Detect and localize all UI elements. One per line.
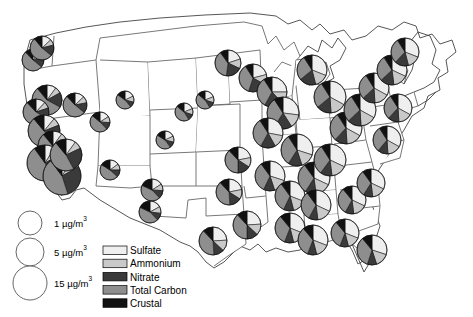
pie-marker [90, 112, 110, 132]
species-legend-swatch [103, 259, 127, 268]
pie-marker [215, 50, 241, 76]
pie-marker [50, 139, 82, 171]
pie-marker [100, 160, 120, 180]
pie-marker [139, 201, 161, 223]
pie-marker [281, 134, 313, 166]
pie-marker [63, 93, 87, 117]
pie-marker [216, 179, 242, 205]
species-legend-swatch [103, 272, 127, 281]
pie-marker [253, 118, 283, 148]
species-legend-label: Total Carbon [130, 285, 187, 296]
pie-marker [314, 81, 346, 113]
size-legend-circle [16, 238, 44, 266]
pie-marker [314, 144, 346, 176]
size-legend-label: 15 µg/m3 [54, 274, 93, 289]
pie-marker [384, 94, 412, 122]
pie-marker [331, 219, 359, 247]
size-legend-label: 5 µg/m3 [54, 243, 87, 258]
pie-marker [357, 169, 385, 197]
species-legend-label: Crustal [130, 298, 162, 309]
pie-marker [196, 91, 214, 109]
size-legend: 1 µg/m35 µg/m315 µg/m3 [13, 211, 93, 300]
size-legend-circle [18, 211, 42, 235]
species-legend-label: Nitrate [130, 272, 160, 283]
species-legend: SulfateAmmoniumNitrateTotal CarbonCrusta… [103, 245, 187, 309]
pie-marker [175, 103, 193, 121]
species-legend-label: Ammonium [130, 258, 181, 269]
species-legend-swatch [103, 299, 127, 308]
pie-marker [373, 126, 401, 154]
us-aerosol-pie-map: 1 µg/m35 µg/m315 µg/m3 SulfateAmmoniumNi… [0, 0, 473, 317]
pie-wedge-sulfate [283, 97, 299, 115]
species-legend-label: Sulfate [130, 245, 162, 256]
species-legend-swatch [103, 246, 127, 255]
pie-marker [199, 227, 227, 255]
figure-canvas: 1 µg/m35 µg/m315 µg/m3 SulfateAmmoniumNi… [0, 0, 473, 317]
pie-marker [156, 131, 174, 149]
pie-marker [233, 211, 261, 239]
pie-marker [301, 190, 331, 220]
pie-marker [30, 36, 54, 60]
size-legend-label: 1 µg/m3 [54, 214, 87, 229]
pie-marker [141, 179, 163, 201]
pie-marker [391, 38, 419, 66]
pie-marker [225, 147, 251, 173]
pie-marker [298, 225, 328, 255]
species-legend-swatch [103, 286, 127, 295]
pie-marker [297, 55, 327, 85]
pie-marker [357, 235, 387, 265]
pie-marker [116, 91, 134, 109]
size-legend-circle [13, 266, 47, 300]
